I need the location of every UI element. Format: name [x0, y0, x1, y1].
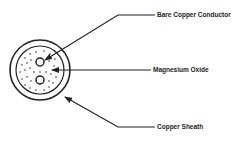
label-copper-sheath: Copper Sheath — [157, 124, 203, 131]
label-magnesium-oxide: Magnesium Oxide — [153, 67, 209, 74]
cable-cross-section-diagram: Bare Copper Conductor Magnesium Oxide Co… — [0, 0, 242, 142]
sheath-leader-line — [65, 97, 155, 127]
label-bare-copper-conductor: Bare Copper Conductor — [157, 12, 231, 19]
